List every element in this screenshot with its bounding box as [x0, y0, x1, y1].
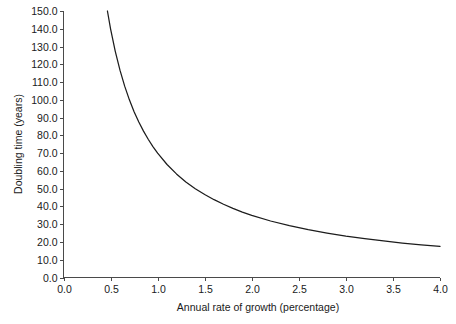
x-tick-label: 3.0: [339, 283, 354, 295]
y-tick-label: 40.0: [37, 200, 58, 212]
y-tick-label: 130.0: [31, 41, 57, 53]
y-tick-label: 120.0: [31, 58, 57, 70]
y-tick-label: 30.0: [37, 218, 58, 230]
doubling-time-line-chart: 0.010.020.030.040.050.060.070.080.090.01…: [0, 0, 456, 324]
x-tick-label: 0.5: [104, 283, 119, 295]
x-axis-tick-labels: 0.00.51.01.52.02.53.03.54.0: [57, 283, 448, 295]
x-axis-title: Annual rate of growth (percentage): [177, 301, 339, 313]
y-tick-label: 100.0: [31, 94, 57, 106]
chart-background: [0, 0, 456, 324]
x-tick-label: 1.5: [198, 283, 213, 295]
y-axis-title: Doubling time (years): [12, 94, 24, 194]
x-tick-label: 0.0: [57, 283, 72, 295]
x-tick-label: 3.5: [386, 283, 401, 295]
y-tick-label: 90.0: [37, 112, 58, 124]
y-tick-label: 140.0: [31, 23, 57, 35]
y-tick-label: 60.0: [37, 165, 58, 177]
x-tick-label: 4.0: [433, 283, 448, 295]
y-tick-label: 80.0: [37, 129, 58, 141]
y-tick-label: 20.0: [37, 236, 58, 248]
x-tick-label: 1.0: [151, 283, 166, 295]
x-tick-label: 2.0: [245, 283, 260, 295]
y-tick-label: 10.0: [37, 254, 58, 266]
y-tick-label: 0.0: [43, 272, 58, 284]
x-tick-label: 2.5: [292, 283, 307, 295]
y-tick-label: 110.0: [32, 76, 58, 88]
y-tick-label: 70.0: [37, 147, 58, 159]
y-tick-label: 150.0: [31, 5, 57, 17]
y-tick-label: 50.0: [37, 183, 58, 195]
chart-figure: 0.010.020.030.040.050.060.070.080.090.01…: [0, 0, 456, 324]
